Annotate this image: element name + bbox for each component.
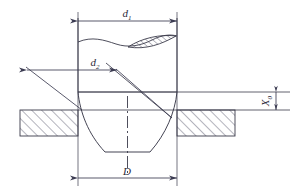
X0-label: X0	[259, 95, 274, 107]
flute-break-hatch	[128, 35, 176, 47]
d2-label: d2	[91, 56, 101, 71]
d2-leader-left	[26, 67, 82, 110]
d1-label: d1	[123, 7, 132, 22]
plate-right-section	[177, 110, 235, 136]
diagram-canvas: d1 d2 D X0	[0, 0, 298, 194]
engineering-diagram: d1 d2 D X0	[0, 0, 298, 194]
d2-leader-right	[116, 69, 172, 118]
dimension-d2: d2	[26, 56, 172, 118]
plate-right-hatch	[177, 110, 235, 136]
dimension-D: D	[78, 165, 177, 178]
dimension-X0: X0	[259, 92, 276, 110]
dimension-d1: d1	[78, 7, 177, 22]
plate-left-section	[20, 110, 78, 136]
D-label: D	[122, 165, 131, 177]
plate-left-hatch	[20, 110, 78, 136]
